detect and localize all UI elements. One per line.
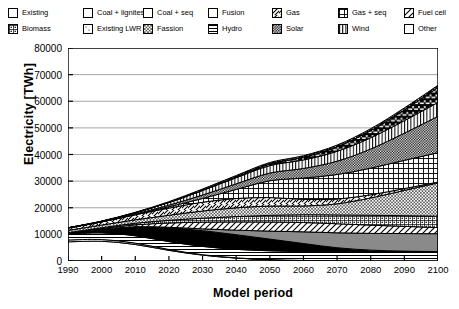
x-tick-label: 2050	[259, 264, 280, 275]
legend-swatch-dense-checker-icon	[272, 24, 282, 34]
legend-column: Gas + seqWind	[338, 6, 386, 38]
legend-swatch-fine-checker-icon	[143, 24, 153, 34]
legend-label: Other	[418, 24, 437, 34]
x-tick-label: 2060	[293, 264, 314, 275]
legend-label: Fusion	[222, 8, 245, 18]
legend-swatch-black-blocks-icon	[208, 8, 218, 18]
y-tick-label: 80000	[6, 43, 62, 54]
legend-swatch-cross-grid-icon	[338, 8, 348, 18]
legend-swatch-black-quad-icon	[404, 24, 414, 34]
x-tick-label: 2100	[427, 264, 448, 275]
chart-legend: ExistingBiomassCoal + lignitesExisting L…	[0, 0, 459, 40]
legend-item-gas-seq[interactable]: Gas + seq	[338, 6, 386, 20]
x-tick-label: 2000	[91, 264, 112, 275]
legend-swatch-solid-gray-icon	[143, 8, 153, 18]
legend-item-other[interactable]: Other	[404, 22, 446, 36]
legend-swatch-diagonal-hatch-icon	[272, 8, 282, 18]
legend-label: Gas + seq	[352, 8, 386, 18]
legend-label: Coal + seq	[157, 8, 193, 18]
legend-item-wind[interactable]: Wind	[338, 22, 386, 36]
legend-label: Wind	[352, 24, 369, 34]
legend-column: GasSolar	[272, 6, 304, 38]
x-tick-label: 2090	[394, 264, 415, 275]
legend-label: Hydro	[222, 24, 242, 34]
legend-label: Solar	[286, 24, 304, 34]
y-tick-label: 20000	[6, 202, 62, 213]
legend-item-coal-seq[interactable]: Coal + seq	[143, 6, 193, 20]
legend-item-fusion[interactable]: Fusion	[208, 6, 245, 20]
x-tick-label: 2080	[360, 264, 381, 275]
legend-item-gas[interactable]: Gas	[272, 6, 304, 20]
x-tick-label: 2020	[158, 264, 179, 275]
y-tick-label: 40000	[6, 149, 62, 160]
x-tick-label: 2010	[125, 264, 146, 275]
legend-item-fassion[interactable]: Fassion	[143, 22, 193, 36]
plot-area	[68, 48, 438, 261]
x-axis-ticks: 1990200020102020203020402050206020702080…	[0, 264, 459, 278]
legend-label: Coal + lignites	[97, 8, 144, 18]
chart-figure: ExistingBiomassCoal + lignitesExisting L…	[0, 0, 459, 309]
y-tick-label: 10000	[6, 229, 62, 240]
y-tick-label: 50000	[6, 122, 62, 133]
y-tick-label: 70000	[6, 69, 62, 80]
legend-column: Coal + seqFassion	[143, 6, 193, 38]
legend-item-hydro[interactable]: Hydro	[208, 22, 245, 36]
legend-label: Fuel cell	[418, 8, 446, 18]
legend-swatch-sparse-dots-icon	[83, 24, 93, 34]
legend-item-fuel-cell[interactable]: Fuel cell	[404, 6, 446, 20]
x-tick-label: 1990	[57, 264, 78, 275]
x-tick-label: 2070	[327, 264, 348, 275]
y-axis-ticks: 0100002000030000400005000060000700008000…	[4, 0, 62, 309]
x-tick-label: 2040	[226, 264, 247, 275]
legend-swatch-back-diagonal-icon	[404, 8, 414, 18]
legend-label: Gas	[286, 8, 300, 18]
legend-swatch-vertical-lines-icon	[338, 24, 348, 34]
legend-item-coal-lignites[interactable]: Coal + lignites	[83, 6, 144, 20]
x-tick-label: 2030	[192, 264, 213, 275]
legend-column: Coal + lignitesExisting LWR	[83, 6, 144, 38]
y-tick-label: 60000	[6, 96, 62, 107]
legend-item-existing-lwr[interactable]: Existing LWR	[83, 22, 144, 36]
legend-label: Fassion	[157, 24, 183, 34]
y-tick-label: 30000	[6, 176, 62, 187]
legend-item-solar[interactable]: Solar	[272, 22, 304, 36]
legend-swatch-horizontal-lines-icon	[208, 24, 218, 34]
x-axis-title: Model period	[68, 286, 438, 300]
legend-column: FusionHydro	[208, 6, 245, 38]
legend-swatch-solid-black-icon	[83, 8, 93, 18]
legend-column: Fuel cellOther	[404, 6, 446, 38]
legend-label: Existing LWR	[97, 24, 141, 34]
